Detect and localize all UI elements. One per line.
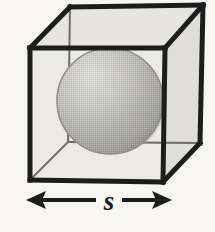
edge-front-right xyxy=(163,48,165,182)
dimension-label: s xyxy=(103,186,115,216)
sphere-in-cube-diagram: s xyxy=(0,0,215,232)
edge-front-bottom xyxy=(30,180,163,182)
figure-container: s xyxy=(0,0,215,232)
edge-back-top xyxy=(70,5,203,7)
edge-back-right-vertical xyxy=(200,5,203,143)
